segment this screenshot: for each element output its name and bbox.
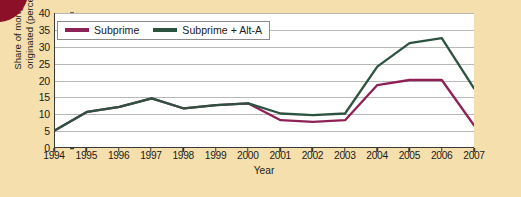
series-line-subprime-alt-a — [55, 38, 474, 130]
legend-entry: Subprime — [65, 24, 139, 36]
x-tick-mark — [86, 148, 88, 152]
x-tick-mark — [150, 148, 152, 152]
x-axis-title: Year — [54, 165, 474, 176]
chart-figure: Share of mortgages originated (percent) … — [0, 0, 521, 197]
y-axis-tick-labels: 0510152025303540 — [20, 13, 50, 148]
x-axis-tick-labels: 1994199519961997199819992000200120022003… — [54, 150, 474, 164]
x-tick-mark — [247, 148, 249, 152]
chart-legend: SubprimeSubprime + Alt-A — [57, 21, 270, 40]
y-tick-label: 10 — [39, 108, 50, 120]
y-tick-label: 35 — [39, 24, 50, 36]
x-tick-mark — [473, 148, 475, 152]
x-tick-mark — [182, 148, 184, 152]
x-tick-mark — [409, 148, 411, 152]
x-tick-mark — [53, 148, 55, 152]
x-tick-mark — [441, 148, 443, 152]
x-tick-mark — [376, 148, 378, 152]
x-tick-mark — [344, 148, 346, 152]
y-tick-label: 40 — [39, 7, 50, 19]
y-tick-label: 15 — [39, 91, 50, 103]
legend-swatch — [153, 28, 177, 31]
series-line-subprime — [55, 80, 474, 130]
x-tick-mark — [279, 148, 281, 152]
x-tick-mark — [215, 148, 217, 152]
x-tick-mark — [312, 148, 314, 152]
legend-swatch — [65, 28, 89, 31]
x-tick-mark — [118, 148, 120, 152]
legend-label: Subprime — [94, 24, 139, 36]
legend-entry: Subprime + Alt-A — [153, 24, 262, 36]
y-tick-label: 20 — [39, 75, 50, 87]
y-tick-label: 25 — [39, 58, 50, 70]
y-tick-label: 30 — [39, 41, 50, 53]
y-tick-label: 5 — [44, 125, 50, 137]
legend-label: Subprime + Alt-A — [182, 24, 262, 36]
